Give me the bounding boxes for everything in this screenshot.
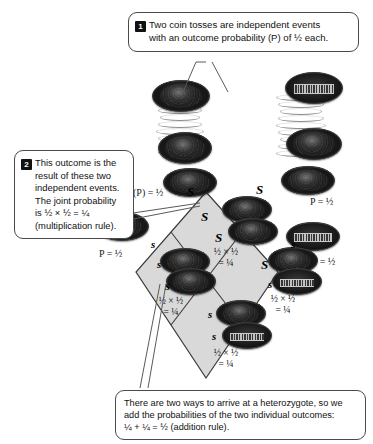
callout-1-line2: with an outcome probability (P) of ½ eac…: [149, 32, 350, 45]
callout-3-line2: add the probabilities of the two individ…: [124, 409, 357, 421]
callout-3: There are two ways to arrive at a hetero…: [115, 390, 366, 440]
callout-1: 1Two coin tosses are independent events …: [128, 12, 359, 52]
callout-3-line3: ¼ + ¼ = ½ (addition rule).: [124, 421, 357, 433]
callout-2-line1: This outcome is the: [35, 157, 116, 168]
figure-canvas: (P) = ½ P = ½ P = ½ P = ½ S S S S s s s …: [0, 0, 373, 444]
callout-2-line3: independent events.: [35, 182, 126, 194]
callout-1-line1: Two coin tosses are independent events: [149, 19, 320, 30]
callout-2-line6: (multiplication rule).: [35, 220, 126, 232]
callout-2-line4: The joint probability: [35, 195, 126, 207]
callout-2-line5: is ½ × ½ = ¼: [35, 207, 126, 219]
leader-1b: [212, 62, 228, 92]
callout-2-line2: result of these two: [35, 170, 126, 182]
leader-1a: [183, 62, 196, 92]
callout-2: 2This outcome is the result of these two…: [14, 150, 134, 239]
callout-1-badge: 1: [135, 21, 146, 32]
callout-3-line1: There are two ways to arrive at a hetero…: [124, 397, 357, 409]
callout-2-badge: 2: [21, 159, 32, 170]
